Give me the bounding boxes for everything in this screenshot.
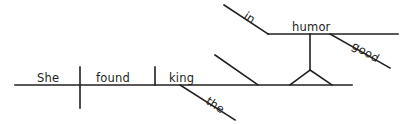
triangle-right-leg [310,70,332,85]
word-modifier-good: good [350,38,383,65]
word-subject-she: She [37,71,59,85]
prep-phrase-slant [215,55,258,85]
word-object-king: king [169,71,194,85]
reed-kellogg-diagram: She found king the in humor good [0,0,408,124]
triangle-left-leg [290,70,310,85]
word-verb-found: found [96,71,130,85]
sentence-diagram-canvas: She found king the in humor good [0,0,408,124]
word-preposition-in: in [241,9,258,27]
word-prep-object-humor: humor [292,20,331,34]
